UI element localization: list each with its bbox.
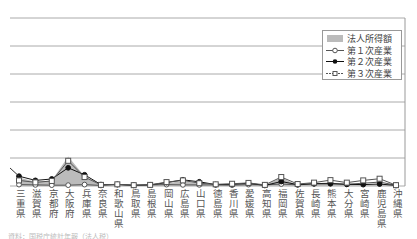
- data-point-marker: [164, 180, 169, 185]
- data-point-marker: [148, 182, 153, 187]
- data-point-marker: [82, 182, 87, 187]
- data-point-marker: [82, 175, 87, 180]
- x-axis-label: 佐賀県: [292, 189, 304, 219]
- data-point-marker: [246, 180, 251, 185]
- data-point-marker: [33, 180, 38, 185]
- x-axis-label: 和歌山県: [111, 189, 123, 229]
- data-point-marker: [312, 180, 317, 185]
- open-square-line-icon: [326, 69, 344, 78]
- data-point-marker: [328, 178, 333, 183]
- x-axis-label: 大阪府: [62, 189, 74, 219]
- legend-label: 第３次産業: [347, 67, 392, 80]
- x-axis-label: 三重県: [13, 189, 25, 219]
- data-point-marker: [115, 182, 120, 187]
- x-axis-label: 熊本県: [324, 189, 336, 219]
- data-point-marker: [344, 180, 349, 185]
- x-axis-label: 宮崎県: [357, 189, 369, 219]
- data-point-marker: [66, 158, 71, 163]
- x-axis-label: 岡山県: [161, 189, 173, 219]
- line-continuation: [10, 168, 19, 176]
- data-point-marker: [49, 178, 54, 183]
- x-axis-label: 広島県: [177, 189, 189, 219]
- x-axis-label: 鳥取県: [128, 189, 140, 219]
- data-point-marker: [377, 176, 382, 181]
- open-circle-line-icon: [326, 46, 344, 55]
- x-axis-label: 山口県: [193, 189, 205, 219]
- x-axis-label: 兵庫県: [79, 189, 91, 219]
- x-axis-label: 長崎県: [308, 189, 320, 219]
- data-point-marker: [17, 178, 22, 183]
- x-axis-label: 大分県: [341, 189, 353, 219]
- data-point-marker: [262, 182, 267, 187]
- data-point-marker: [295, 182, 300, 187]
- x-axis-label: 島根県: [144, 189, 156, 219]
- filled-diamond-line-icon: [326, 57, 344, 66]
- source-note: 資料：国税庁統計年報（法人税）: [8, 231, 113, 239]
- x-axis-label: 香川県: [226, 189, 238, 219]
- data-point-marker: [98, 182, 103, 187]
- legend-item-tertiary-industry: 第３次産業: [326, 68, 398, 80]
- gray-box-icon: [326, 34, 344, 43]
- data-point-marker: [279, 175, 284, 180]
- x-axis-label: 沖縄県: [390, 189, 402, 219]
- x-axis-label: 愛媛県: [242, 189, 254, 219]
- data-point-marker: [377, 182, 382, 187]
- x-axis-label: 福岡県: [275, 189, 287, 219]
- data-point-marker: [66, 183, 71, 188]
- data-point-marker: [230, 181, 235, 186]
- x-axis-label: 鹿児島県: [374, 189, 386, 229]
- data-point-marker: [394, 183, 399, 188]
- chart-legend: 法人所得額 第１次産業 第２次産業 第３次産業: [322, 30, 402, 80]
- data-point-marker: [213, 182, 218, 187]
- data-point-marker: [180, 178, 185, 183]
- x-axis-label: 滋賀県: [29, 189, 41, 219]
- x-axis-label: 徳島県: [210, 189, 222, 219]
- x-axis-label: 高知県: [259, 189, 271, 219]
- data-point-marker: [197, 181, 202, 186]
- data-point-marker: [361, 178, 366, 183]
- data-point-marker: [66, 165, 71, 170]
- x-axis-label: 京都府: [46, 189, 58, 219]
- x-axis-label: 奈良県: [95, 189, 107, 219]
- data-point-marker: [131, 183, 136, 188]
